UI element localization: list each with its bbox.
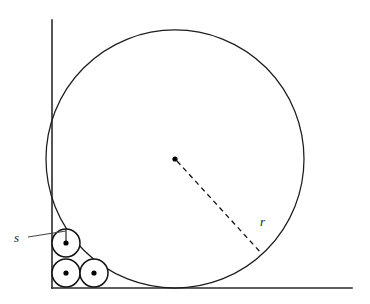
large-circle-center-dot bbox=[172, 156, 177, 161]
geometry-figure: r s bbox=[0, 0, 370, 304]
figure-svg: r s bbox=[0, 0, 370, 304]
radius-label-s: s bbox=[14, 230, 19, 245]
small-circle-lower-right-center-dot bbox=[91, 270, 96, 275]
small-circle-lower-left-center-dot bbox=[63, 270, 68, 275]
large-circle-radius-line bbox=[177, 161, 262, 254]
radius-label-r: r bbox=[260, 214, 266, 229]
small-circle-upper-left-center-dot bbox=[63, 240, 68, 245]
